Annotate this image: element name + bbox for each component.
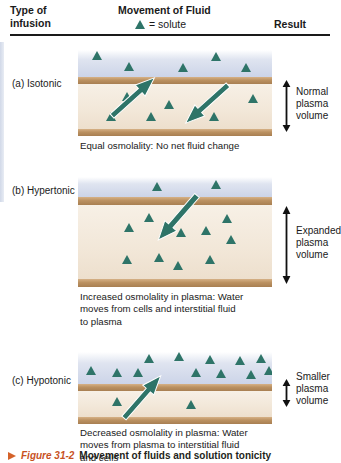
caption-line: moves from cells and interstitial fluid bbox=[80, 303, 243, 315]
column-header-movement: Movement of Fluid bbox=[118, 4, 211, 16]
solute-triangle bbox=[211, 52, 221, 61]
solute-triangle bbox=[222, 214, 232, 223]
solute-triangle bbox=[256, 354, 266, 363]
triangle-solute-icon bbox=[135, 20, 145, 29]
solute-triangle bbox=[209, 112, 219, 121]
result-line: volume bbox=[296, 395, 330, 407]
panel-label-hypotonic: (c) Hypotonic bbox=[12, 375, 71, 386]
solute-triangle bbox=[248, 94, 258, 103]
volume-indicator-hypotonic bbox=[281, 379, 292, 407]
result-hypotonic: Smaller plasma volume bbox=[296, 371, 330, 408]
panel-caption-isotonic: Equal osmolality: No net fluid change bbox=[80, 140, 239, 152]
figure-number: Figure 31-2 bbox=[21, 450, 74, 461]
legend-label: = solute bbox=[149, 18, 186, 30]
solute-triangle bbox=[144, 354, 154, 363]
solute-triangle bbox=[201, 226, 211, 235]
solute-triangle bbox=[164, 100, 174, 109]
result-isotonic: Normal plasma volume bbox=[296, 86, 328, 123]
solute-triangle bbox=[174, 352, 184, 361]
caption-line: to plasma bbox=[80, 316, 243, 328]
solute-triangle bbox=[152, 182, 162, 191]
table-header: Type of infusion Movement of Fluid = sol… bbox=[0, 0, 339, 40]
caption-marker-icon bbox=[8, 452, 16, 460]
result-line: plasma bbox=[296, 383, 330, 395]
solute-triangle bbox=[144, 213, 154, 222]
page-edge-strip bbox=[0, 42, 4, 202]
figure-caption: Figure 31-2 Movement of fluids and solut… bbox=[8, 450, 339, 461]
diagram-hypertonic bbox=[78, 177, 272, 287]
result-line: plasma bbox=[296, 98, 328, 110]
solute-triangle bbox=[154, 253, 164, 262]
solute-triangle bbox=[235, 356, 245, 365]
diagram-hypotonic bbox=[78, 352, 272, 424]
solute-triangle bbox=[146, 112, 156, 121]
volume-indicator-hypertonic bbox=[281, 206, 292, 284]
solute-triangle bbox=[92, 51, 102, 60]
result-line: Normal bbox=[296, 86, 328, 98]
volume-indicator-isotonic bbox=[281, 80, 292, 132]
result-line: volume bbox=[296, 110, 328, 122]
solute-triangle bbox=[216, 369, 226, 378]
panel-label-isotonic: (a) Isotonic bbox=[12, 78, 61, 89]
layer-membrane-top bbox=[78, 197, 272, 205]
solute-triangle bbox=[211, 180, 221, 189]
layer-plasma bbox=[78, 84, 272, 129]
diagram-isotonic bbox=[78, 50, 272, 136]
solute-triangle bbox=[205, 355, 215, 364]
figure-caption-text: Movement of fluids and solution tonicity bbox=[79, 450, 271, 461]
solute-triangle bbox=[124, 223, 134, 232]
column-header-result: Result bbox=[274, 18, 306, 30]
layer-membrane-bottom bbox=[78, 279, 272, 287]
result-line: plasma bbox=[296, 237, 341, 249]
solute-triangle bbox=[178, 63, 188, 72]
solute-triangle bbox=[133, 368, 143, 377]
solute-triangle bbox=[122, 255, 132, 264]
result-line: volume bbox=[296, 249, 341, 261]
panel-label-hypertonic: (b) Hypertonic bbox=[12, 185, 75, 196]
panel-caption-hypertonic: Increased osmolality in plasma: Water mo… bbox=[80, 291, 243, 328]
column-header-type: Type of infusion bbox=[10, 4, 90, 29]
solute-triangle bbox=[264, 366, 272, 375]
layer-membrane-bottom bbox=[78, 129, 272, 136]
column-header-type-line2: infusion bbox=[10, 17, 90, 30]
layer-membrane-bottom bbox=[78, 417, 272, 424]
legend: = solute bbox=[135, 18, 186, 30]
solute-triangle bbox=[112, 368, 122, 377]
solute-triangle bbox=[226, 235, 236, 244]
caption-line: Decreased osmolality in plasma: Water bbox=[80, 427, 248, 439]
solute-triangle bbox=[112, 397, 122, 406]
solute-triangle bbox=[205, 255, 215, 264]
column-header-type-line1: Type of bbox=[10, 4, 90, 17]
solute-triangle bbox=[191, 368, 201, 377]
layer-interstitial bbox=[78, 177, 272, 197]
solute-triangle bbox=[124, 62, 134, 71]
layer-membrane-top bbox=[78, 77, 272, 84]
solute-triangle bbox=[241, 63, 251, 72]
result-line: Smaller bbox=[296, 371, 330, 383]
result-line: Expanded bbox=[296, 225, 341, 237]
caption-line: Increased osmolality in plasma: Water bbox=[80, 291, 243, 303]
layer-plasma bbox=[78, 391, 272, 417]
solute-triangle bbox=[173, 261, 183, 270]
solute-triangle bbox=[246, 370, 256, 379]
header-divider bbox=[10, 34, 330, 36]
layer-membrane-top bbox=[78, 384, 272, 391]
result-hypertonic: Expanded plasma volume bbox=[296, 225, 341, 262]
solute-triangle bbox=[186, 400, 196, 409]
solute-triangle bbox=[86, 366, 96, 375]
